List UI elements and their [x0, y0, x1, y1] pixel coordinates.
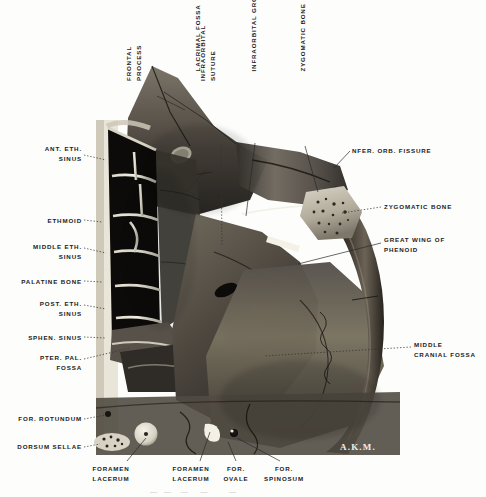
label-foramen-lacerum-1: FORAMEN LACERUM: [78, 464, 144, 483]
anatomical-plate-figure: FRONTAL PROCESS LACRIMAL FOSSA INFRAORBI…: [0, 0, 486, 497]
label-dorsum-sellae: DORSUM SELLAE: [10, 442, 82, 452]
label-pter-pal-fossa: PTER. PAL. FOSSA: [10, 353, 82, 372]
label-foramen-lacerum-2: FORAMEN LACERUM: [158, 464, 224, 483]
label-zygomatic-bone-right: ZYGOMATIC BONE: [384, 202, 452, 212]
label-ant-eth-sinus: ANT. ETH. SINUS: [10, 144, 82, 163]
label-zygomatic-bone-top: ZYGOMATIC BONE: [298, 3, 308, 71]
foramen-rotundum-mark: [105, 411, 111, 417]
label-infer-orb-fissure: NFER. ORB. FISSURE: [352, 146, 432, 156]
label-for-rotundum: FOR. ROTUNDUM: [10, 414, 82, 424]
label-infraorbital-groove: INFRAORBITAL GROOVE: [249, 0, 259, 72]
label-middle-cranial-fossa: MIDDLE CRANIAL FOSSA: [414, 340, 476, 359]
figure-caption-partial: — — — — —: [150, 488, 237, 495]
artist-signature: A.K.M.: [340, 442, 376, 452]
label-middle-eth-sinus: MIDDLE ETH. SINUS: [10, 242, 82, 261]
label-ethmoid: ETHMOID: [10, 216, 82, 226]
plate-image-area: [90, 55, 400, 455]
label-great-wing-of-sphenoid: GREAT WING OF PHENOID: [384, 235, 445, 254]
label-palatine-bone: PALATINE BONE: [10, 277, 82, 287]
label-infraorbital-suture: INFRAORBITAL SUTURE: [198, 25, 217, 81]
label-sphen-sinus: SPHEN. SINUS: [10, 333, 82, 343]
dorsum-sellae-region: [94, 433, 130, 451]
label-for-ovale: FOR. OVALE: [216, 464, 256, 483]
label-for-spinosum: FOR. SPINOSUM: [256, 464, 312, 483]
label-post-eth-sinus: POST. ETH. SINUS: [10, 299, 82, 318]
label-frontal-process: FRONTAL PROCESS: [124, 45, 143, 81]
